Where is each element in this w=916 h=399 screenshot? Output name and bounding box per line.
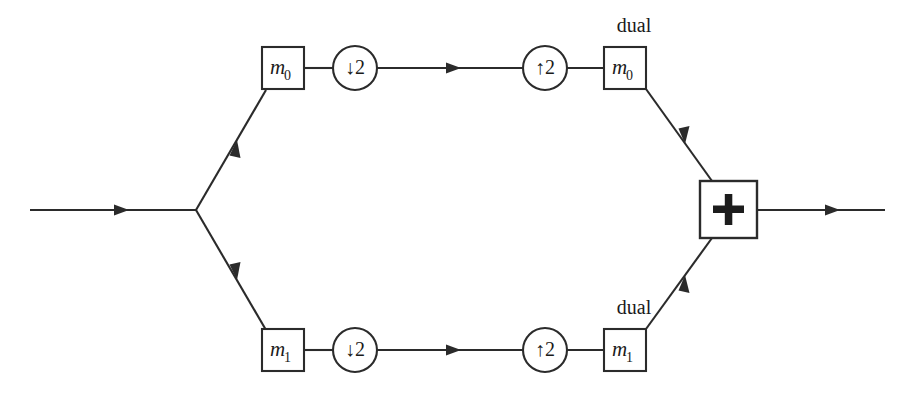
upper-analysis-filter-label: m	[270, 55, 285, 79]
upper-downsampler-label: ↓2	[345, 56, 365, 78]
lower-synthesis-filter-subscript: 1	[626, 350, 633, 365]
lower-analysis-filter-label: m	[270, 337, 285, 361]
input-signal-wire	[30, 205, 196, 216]
upper-synthesis-dual-label: dual	[617, 14, 652, 36]
diagram-canvas: m 0 ↓2 ↑2 dual m 0 m 1 ↓2	[0, 0, 916, 399]
upper-mid-arrowhead	[446, 63, 461, 74]
input-arrowhead	[114, 205, 129, 216]
fork-lower-branch-wire	[196, 210, 266, 330]
filter-bank-diagram: m 0 ↓2 ↑2 dual m 0 m 1 ↓2	[0, 0, 916, 399]
merge-lower-branch-wire	[646, 238, 712, 329]
lower-synthesis-dual-label: dual	[617, 296, 652, 318]
upper-analysis-filter-subscript: 0	[284, 68, 291, 83]
upper-wire-downsampler-to-upsampler	[377, 63, 523, 74]
lower-upsampler-label: ↑2	[535, 338, 555, 360]
lower-wire-downsampler-to-upsampler	[377, 345, 523, 356]
upper-synthesis-filter-subscript: 0	[626, 68, 633, 83]
lower-mid-arrowhead	[446, 345, 461, 356]
lower-analysis-filter-subscript: 1	[284, 350, 291, 365]
upper-upsampler-label: ↑2	[535, 56, 555, 78]
summation-plus-vertical	[725, 194, 733, 225]
merge-lower-arrowhead	[679, 275, 690, 293]
output-signal-wire	[757, 205, 885, 216]
lower-synthesis-filter-label: m	[612, 337, 627, 361]
lower-downsampler-label: ↓2	[345, 338, 365, 360]
fork-upper-branch-wire	[196, 90, 266, 210]
upper-synthesis-filter-label: m	[612, 55, 627, 79]
output-arrowhead	[825, 205, 840, 216]
merge-upper-branch-wire	[646, 89, 712, 181]
